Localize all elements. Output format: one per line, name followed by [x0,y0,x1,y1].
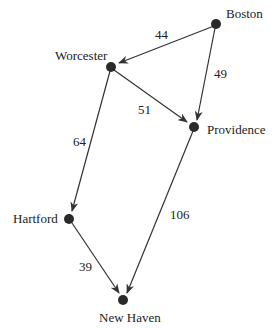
weight-worcester-hartford: 64 [73,134,87,149]
edge-hartford-newhaven [72,223,119,293]
weight-boston-worcester: 44 [155,27,169,42]
node-worcester [106,62,116,72]
node-newhaven [118,295,128,305]
label-newhaven: New Haven [99,310,161,325]
weight-worcester-providence: 51 [138,102,151,117]
node-hartford [64,214,74,224]
edge-boston-providence [197,28,215,120]
label-hartford: Hartford [13,211,58,226]
weight-hartford-newhaven: 39 [79,259,92,274]
node-providence [189,122,199,132]
weight-providence-newhaven: 106 [170,207,190,222]
label-providence: Providence [207,122,266,137]
weight-boston-providence: 49 [214,66,227,81]
label-worcester: Worcester [55,48,108,63]
label-boston: Boston [226,6,263,21]
node-boston [211,19,221,29]
graph-diagram: Boston Worcester Providence Hartford New… [0,0,277,328]
